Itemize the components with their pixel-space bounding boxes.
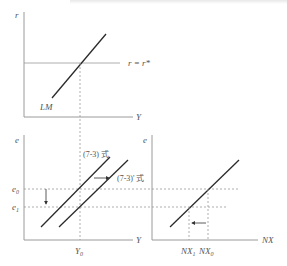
nx1-tick-label: NX1: [180, 246, 196, 257]
y0-tick-label: Y0: [75, 246, 83, 257]
top-panel: r Y r = r* LM: [15, 10, 151, 122]
curve-7-3: [41, 157, 110, 227]
curve-7-3-prime: [59, 160, 128, 227]
bl-x-label: Y: [136, 235, 142, 245]
nx0-tick-label: NX0: [198, 246, 214, 257]
curve-7-3-prime-label: (7-3)' 式: [117, 173, 144, 183]
curve-7-3-label: (7-3) 式: [83, 149, 109, 159]
lm-label: LM: [39, 102, 53, 112]
nx-curve: [170, 160, 239, 227]
lm-curve: [52, 34, 106, 98]
top-x-label: Y: [136, 112, 142, 122]
br-y-label: e: [143, 135, 147, 145]
diagram-canvas: r Y r = r* LM e Y e0 e1 (7-3) 式 (7-3)' 式…: [0, 0, 287, 266]
r-star-label: r = r*: [128, 58, 151, 68]
e1-label: e1: [12, 202, 19, 213]
br-x-label: NX: [261, 235, 274, 245]
bottom-right-panel: e NX NX1 NX0: [143, 135, 274, 257]
bottom-left-panel: e Y e0 e1 (7-3) 式 (7-3)' 式 Y0: [12, 135, 240, 257]
e0-label: e0: [12, 184, 19, 195]
bl-y-label: e: [15, 135, 19, 145]
top-y-label: r: [15, 10, 19, 20]
